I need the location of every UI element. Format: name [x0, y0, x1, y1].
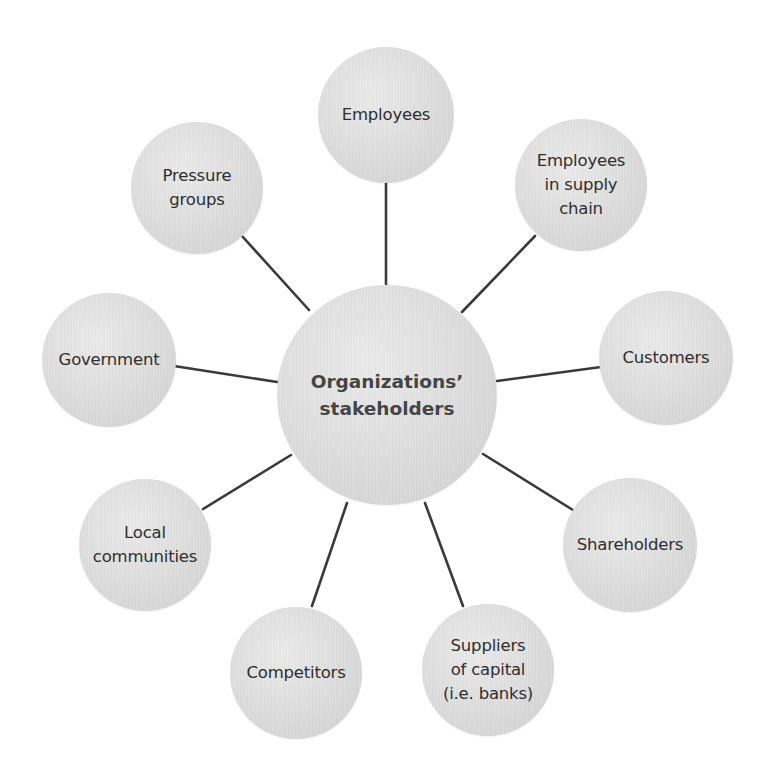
- stakeholder-diagram: Organizations’ stakeholders Employees Em…: [0, 0, 766, 778]
- node-suppliers-of-capital: Suppliers of capital (i.e. banks): [422, 604, 554, 736]
- connector-line-local-communities: [203, 455, 291, 509]
- node-shareholders: Shareholders: [563, 478, 697, 612]
- node-label-government: Government: [59, 348, 160, 372]
- connector-line-pressure-groups: [242, 236, 309, 310]
- connector-line-competitors: [312, 503, 347, 606]
- connector-line-government: [174, 366, 277, 382]
- connector-line-employees-in-supply-chain: [462, 236, 535, 312]
- node-competitors: Competitors: [230, 607, 362, 739]
- connector-line-customers: [497, 367, 601, 381]
- center-node-organizations-stakeholders: Organizations’ stakeholders: [277, 285, 497, 505]
- node-label-shareholders: Shareholders: [577, 533, 683, 557]
- node-customers: Customers: [599, 291, 733, 425]
- connector-line-suppliers-of-capital: [425, 503, 463, 606]
- connector-line-shareholders: [483, 454, 573, 510]
- node-local-communities: Local communities: [79, 479, 211, 611]
- center-node-label: Organizations’ stakeholders: [311, 368, 463, 422]
- node-pressure-groups: Pressure groups: [131, 122, 263, 254]
- node-employees: Employees: [318, 47, 454, 183]
- node-label-customers: Customers: [623, 346, 710, 370]
- node-employees-in-supply-chain: Employees in supply chain: [515, 119, 647, 251]
- node-government: Government: [42, 293, 176, 427]
- node-label-employees: Employees: [342, 103, 431, 127]
- node-label-competitors: Competitors: [246, 661, 345, 685]
- node-label-pressure-groups: Pressure groups: [163, 164, 232, 212]
- node-label-employees-in-supply-chain: Employees in supply chain: [537, 149, 626, 221]
- node-label-suppliers-of-capital: Suppliers of capital (i.e. banks): [443, 634, 533, 706]
- node-label-local-communities: Local communities: [93, 521, 197, 569]
